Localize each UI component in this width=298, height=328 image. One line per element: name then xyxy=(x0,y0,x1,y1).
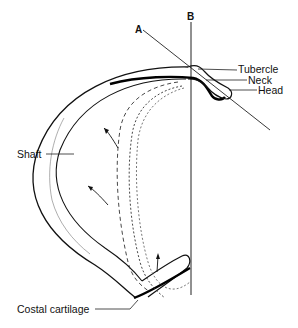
label-shaft: Shaft xyxy=(17,149,42,160)
costal-cartilage-lower xyxy=(134,268,190,298)
arrow-lower-head xyxy=(156,253,160,259)
axis-a-label: A xyxy=(135,25,142,35)
rib-inner-edge xyxy=(56,79,186,281)
dashed-position-3 xyxy=(136,88,190,289)
axis-b-label: B xyxy=(187,12,194,22)
leader-tubercle xyxy=(198,69,237,70)
rib-outer-edge xyxy=(33,67,188,298)
label-tubercle: Tubercle xyxy=(238,64,278,75)
arrow-middle-head xyxy=(88,186,93,191)
label-costal-cartilage: Costal cartilage xyxy=(17,304,89,315)
leader-costal-cartilage-diag xyxy=(130,300,138,309)
label-head: Head xyxy=(258,85,283,96)
rib-diagram xyxy=(0,0,298,328)
